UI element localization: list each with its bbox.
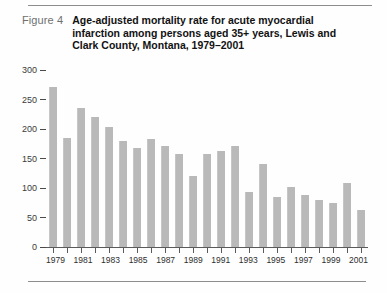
x-label-slot: 1987 <box>156 255 175 269</box>
y-axis-tick: 200 <box>22 124 46 134</box>
bar <box>357 210 365 247</box>
x-axis-tick-label: 1989 <box>184 255 203 269</box>
bar-slot <box>130 70 144 247</box>
x-tick-slot <box>340 248 354 253</box>
bar <box>119 141 127 247</box>
bar <box>315 200 323 247</box>
bar-slot <box>256 70 270 247</box>
bar-slot <box>214 70 228 247</box>
x-label-slot <box>230 255 239 269</box>
x-label-slot: 1979 <box>46 255 65 269</box>
x-axis-tick-label: 1979 <box>46 255 65 269</box>
bar <box>245 192 253 247</box>
x-tick-slot <box>242 248 256 253</box>
x-tick-slot <box>312 248 326 253</box>
bar-slot <box>172 70 186 247</box>
bar-slot <box>284 70 298 247</box>
x-axis-tick-mark <box>95 248 96 253</box>
x-tick-slot <box>60 248 74 253</box>
x-label-slot: 1991 <box>211 255 230 269</box>
bar-series <box>46 70 368 247</box>
x-label-slot <box>285 255 294 269</box>
bar-chart: 050100150200250300 197919811983198519871… <box>0 0 387 293</box>
plot-area <box>46 70 368 247</box>
x-label-slot: 1995 <box>266 255 285 269</box>
x-axis-tick-label: 1995 <box>266 255 285 269</box>
x-label-slot <box>92 255 101 269</box>
x-axis-tick-mark <box>291 248 292 253</box>
x-axis-tick-label: 1991 <box>211 255 230 269</box>
x-axis-tick-mark <box>207 248 208 253</box>
bar <box>175 154 183 247</box>
x-tick-slot <box>186 248 200 253</box>
x-axis-tick-label: 1985 <box>129 255 148 269</box>
x-axis-tick-mark <box>109 248 110 253</box>
y-axis-tick-label: 100 <box>22 183 40 193</box>
x-axis-ticks <box>46 248 368 253</box>
y-axis-tick: 150 <box>22 154 46 164</box>
bar <box>273 197 281 247</box>
bar <box>329 203 337 247</box>
bar <box>63 138 71 247</box>
bar-slot <box>326 70 340 247</box>
bar <box>203 154 211 247</box>
x-label-slot <box>120 255 129 269</box>
x-axis-tick-mark <box>333 248 334 253</box>
x-label-slot: 1997 <box>294 255 313 269</box>
x-axis-tick-mark <box>305 248 306 253</box>
x-tick-slot <box>228 248 242 253</box>
x-axis-tick-label: 1983 <box>101 255 120 269</box>
x-label-slot <box>175 255 184 269</box>
x-axis-tick-mark <box>67 248 68 253</box>
bar-slot <box>312 70 326 247</box>
bar-slot <box>60 70 74 247</box>
x-label-slot <box>203 255 212 269</box>
x-label-slot <box>65 255 74 269</box>
bar <box>231 146 239 247</box>
y-axis-tick: 0 <box>32 242 46 252</box>
x-label-slot <box>340 255 349 269</box>
bar-slot <box>242 70 256 247</box>
x-tick-slot <box>354 248 368 253</box>
x-tick-slot <box>284 248 298 253</box>
bar-slot <box>74 70 88 247</box>
bar-slot <box>354 70 368 247</box>
bar <box>77 108 85 247</box>
x-axis-tick-mark <box>347 248 348 253</box>
x-label-slot: 1999 <box>321 255 340 269</box>
bar <box>259 164 267 247</box>
x-axis-tick-mark <box>249 248 250 253</box>
x-tick-slot <box>88 248 102 253</box>
x-tick-slot <box>144 248 158 253</box>
x-tick-slot <box>130 248 144 253</box>
y-axis-tick: 50 <box>27 213 46 223</box>
x-tick-slot <box>326 248 340 253</box>
y-axis-tick: 250 <box>22 95 46 105</box>
bar <box>105 127 113 247</box>
x-axis-tick-label: 1981 <box>74 255 93 269</box>
bar <box>133 148 141 247</box>
y-axis-tick-label: 50 <box>27 213 40 223</box>
x-tick-slot <box>102 248 116 253</box>
x-axis-tick-label: 1987 <box>156 255 175 269</box>
x-tick-slot <box>158 248 172 253</box>
x-axis-tick-mark <box>263 248 264 253</box>
bar-slot <box>158 70 172 247</box>
x-label-slot: 1985 <box>129 255 148 269</box>
x-axis-tick-mark <box>137 248 138 253</box>
x-label-slot: 1983 <box>101 255 120 269</box>
x-label-slot: 1993 <box>239 255 258 269</box>
bar <box>301 195 309 248</box>
x-axis-tick-mark <box>193 248 194 253</box>
bar <box>189 176 197 247</box>
y-axis-tick-label: 200 <box>22 124 40 134</box>
x-axis-tick-label: 1997 <box>294 255 313 269</box>
x-label-slot <box>313 255 322 269</box>
bar-slot <box>340 70 354 247</box>
bar <box>161 146 169 247</box>
x-axis-tick-mark <box>53 248 54 253</box>
x-tick-slot <box>298 248 312 253</box>
x-axis-tick-mark <box>221 248 222 253</box>
x-label-slot <box>148 255 157 269</box>
bottom-rule <box>28 281 366 282</box>
